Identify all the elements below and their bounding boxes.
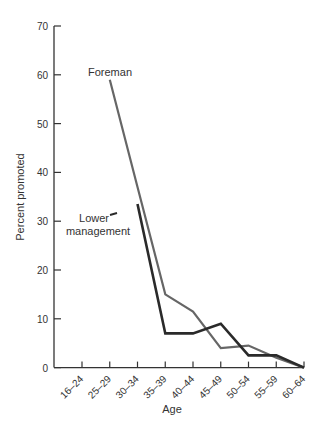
x-axis-title: Age — [162, 403, 182, 415]
x-tick-label: 40–44 — [169, 373, 197, 401]
annotation-lower-management-line2: management — [66, 225, 130, 237]
y-tick-label: 30 — [37, 216, 49, 227]
y-tick-label: 0 — [42, 363, 48, 374]
line-chart: 01020304050607016–2425–2930–3435–3940–44… — [0, 0, 322, 436]
series-line-foreman — [110, 80, 304, 368]
x-tick-label: 25–29 — [86, 373, 114, 401]
x-tick-label: 16–24 — [58, 373, 86, 401]
y-tick-label: 50 — [37, 119, 49, 130]
y-tick-label: 20 — [37, 265, 49, 276]
y-tick-label: 40 — [37, 167, 49, 178]
annotation-foreman: Foreman — [88, 66, 132, 78]
y-tick-label: 70 — [37, 21, 49, 32]
x-tick-label: 60–64 — [280, 373, 308, 401]
x-tick-label: 50–54 — [224, 373, 252, 401]
annotation-leader — [110, 213, 117, 215]
y-tick-label: 60 — [37, 70, 49, 81]
annotation-lower-management: Lower — [79, 212, 109, 224]
x-tick-label: 45–49 — [197, 373, 225, 401]
x-tick-label: 35–39 — [141, 373, 169, 401]
y-tick-label: 10 — [37, 314, 49, 325]
x-tick-label: 30–34 — [113, 373, 141, 401]
x-tick-label: 55–59 — [252, 373, 280, 401]
y-axis-title: Percent promoted — [14, 153, 26, 240]
